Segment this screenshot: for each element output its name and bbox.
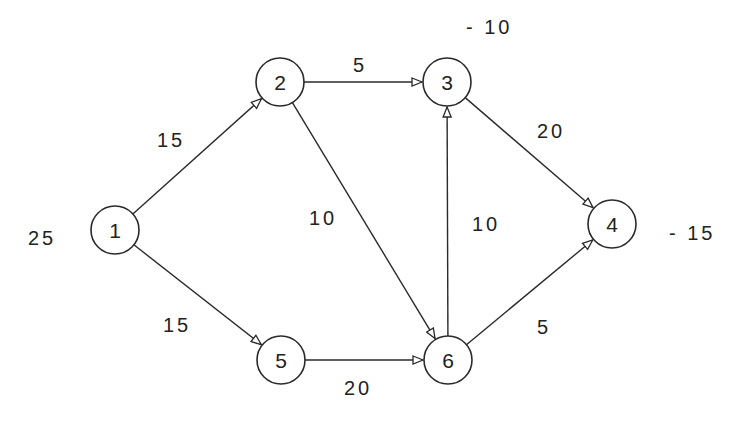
network-diagram: 123456 1515510102020525- 10- 15 (0, 0, 742, 424)
node-6: 6 (424, 336, 472, 384)
edge-label-5-6: 20 (344, 377, 372, 399)
edge-label-2-3: 5 (353, 54, 367, 76)
edge-1-to-5 (134, 245, 261, 345)
node-label: 1 (109, 219, 121, 242)
edge-label-1-2: 15 (157, 129, 185, 151)
node-4: 4 (588, 200, 636, 248)
edge-label-1-5: 15 (163, 314, 191, 336)
edge-3-to-4 (465, 98, 593, 208)
edges-layer (133, 82, 593, 360)
node-label: 5 (275, 349, 287, 372)
node-label: 4 (606, 213, 618, 236)
node-1: 1 (91, 206, 139, 254)
edge-6-to-4 (466, 240, 592, 345)
edge-label-6-3: 10 (472, 213, 500, 235)
edge-label-3-4: 20 (537, 120, 565, 142)
node-label: 2 (274, 71, 286, 94)
supply-label-node-1: 25 (28, 227, 56, 249)
node-2: 2 (256, 58, 304, 106)
edge-label-6-4: 5 (537, 316, 551, 338)
supply-label-node-3: - 10 (466, 16, 512, 38)
edge-6-to-3 (447, 107, 448, 336)
node-label: 3 (441, 71, 453, 94)
node-label: 6 (442, 349, 454, 372)
edge-1-to-2 (133, 99, 262, 214)
edge-label-2-6: 10 (309, 207, 337, 229)
node-5: 5 (257, 336, 305, 384)
supply-label-node-4: - 15 (669, 222, 715, 244)
node-3: 3 (423, 58, 471, 106)
